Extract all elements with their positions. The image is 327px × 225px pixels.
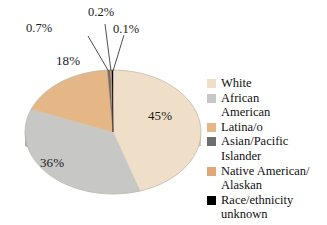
pie-top-face <box>25 70 201 194</box>
leader-line-asian <box>88 36 109 71</box>
slice-value-african-american: 36% <box>40 155 64 171</box>
legend-label-unknown: Race/ethnicity unknown <box>221 193 293 222</box>
leader-line-native <box>105 24 111 71</box>
chart-legend: White African American Latina/o Asian/Pa… <box>207 76 327 222</box>
legend-swatch-unknown <box>207 196 216 205</box>
pie-chart-graphic: 45% 36% 18% 0.7% 0.2% 0.1% <box>0 0 215 225</box>
legend-swatch-latina <box>207 123 216 132</box>
pie-chart-figure: 45% 36% 18% 0.7% 0.2% 0.1% White African… <box>0 0 327 225</box>
callout-value-unknown: 0.1% <box>113 22 139 37</box>
legend-label-asian-pacific-islander: Asian/Pacific Islander <box>221 134 288 163</box>
callout-value-native-american: 0.2% <box>88 5 114 20</box>
legend-label-white: White <box>221 76 252 91</box>
legend-item-white: White <box>207 76 327 91</box>
legend-swatch-asian-pacific-islander <box>207 137 216 146</box>
legend-label-native-american: Native American/ Alaskan <box>221 164 310 193</box>
legend-swatch-native-american <box>207 167 216 176</box>
legend-label-latina: Latina/o <box>221 120 263 135</box>
slice-value-white: 45% <box>148 108 172 124</box>
legend-swatch-white <box>207 79 216 88</box>
legend-swatch-african-american <box>207 94 216 103</box>
legend-item-african-american: African American <box>207 91 327 120</box>
leader-line-unknown <box>113 35 124 71</box>
legend-item-native-american: Native American/ Alaskan <box>207 164 327 193</box>
legend-item-unknown: Race/ethnicity unknown <box>207 193 327 222</box>
callout-value-asian-pacific-islander: 0.7% <box>26 21 52 36</box>
slice-value-latina: 18% <box>56 53 80 69</box>
legend-item-latina: Latina/o <box>207 120 327 135</box>
legend-item-asian-pacific-islander: Asian/Pacific Islander <box>207 134 327 163</box>
legend-label-african-american: African American <box>221 91 270 120</box>
